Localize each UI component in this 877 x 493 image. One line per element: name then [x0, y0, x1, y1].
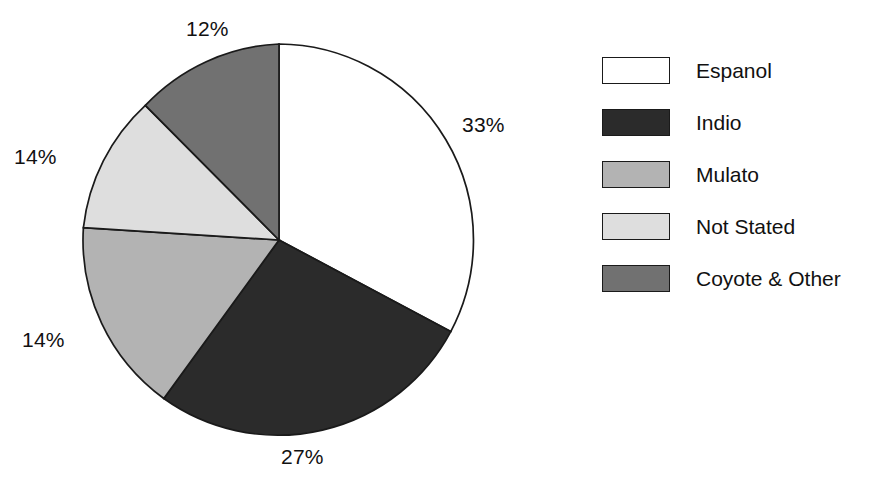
- pie-slices: [83, 44, 473, 435]
- legend-swatch-indio-icon: [602, 109, 670, 136]
- legend-swatch-not-stated-icon: [602, 213, 670, 240]
- pie-chart-figure: 33% 27% 14% 14% 12% Espanol Indio Mulato…: [0, 0, 877, 493]
- legend-item-espanol[interactable]: Espanol: [602, 44, 872, 96]
- legend-item-mulato[interactable]: Mulato: [602, 148, 872, 200]
- pie-label-coyote-other-percent: 12%: [186, 18, 229, 39]
- legend-label-not-stated: Not Stated: [696, 216, 795, 237]
- legend-label-indio: Indio: [696, 112, 742, 133]
- legend-swatch-mulato-icon: [602, 161, 670, 188]
- pie-label-espanol-percent: 33%: [462, 114, 505, 135]
- legend-label-mulato: Mulato: [696, 164, 759, 185]
- legend-item-indio[interactable]: Indio: [602, 96, 872, 148]
- pie-label-mulato-percent: 14%: [22, 329, 65, 350]
- legend-item-not-stated[interactable]: Not Stated: [602, 200, 872, 252]
- legend-item-coyote-other[interactable]: Coyote & Other: [602, 252, 872, 304]
- legend-swatch-espanol-icon: [602, 57, 670, 84]
- legend-label-espanol: Espanol: [696, 60, 772, 81]
- legend-swatch-coyote-other-icon: [602, 265, 670, 292]
- pie-svg: [0, 0, 560, 493]
- chart-legend: Espanol Indio Mulato Not Stated Coyote &…: [602, 44, 872, 304]
- pie-label-not-stated-percent: 14%: [14, 146, 57, 167]
- pie-label-indio-percent: 27%: [281, 446, 324, 467]
- pie-plot-area: 33% 27% 14% 14% 12%: [0, 0, 560, 493]
- legend-label-coyote-other: Coyote & Other: [696, 268, 841, 289]
